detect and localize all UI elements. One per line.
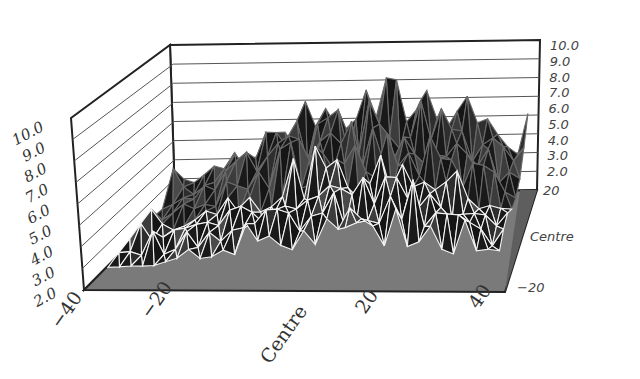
- z-tick-label: 7.0: [549, 85, 570, 100]
- z-tick-label: 6.0: [549, 101, 570, 116]
- x-tick-label: Centre: [255, 301, 311, 368]
- y-tick-label: Centre: [530, 229, 574, 244]
- z-tick-label: 9.0: [550, 54, 571, 69]
- z-axis-left-ticks: 2.03.04.05.06.07.08.09.010.0: [9, 117, 60, 311]
- z-tick-label: 4.0: [548, 133, 569, 148]
- z-tick-label: 4.0: [26, 242, 57, 270]
- y-tick-label: 20: [543, 183, 560, 198]
- y-tick-label: −20: [517, 280, 544, 295]
- surface-chart: 2.03.04.05.06.07.08.09.010.0 2.03.04.05.…: [0, 0, 640, 379]
- z-tick-label: 3.0: [547, 148, 568, 163]
- z-tick-label: 8.0: [549, 70, 570, 85]
- z-axis-right-ticks: 2.03.04.05.06.07.08.09.010.0: [547, 38, 579, 179]
- z-tick-label: 5.0: [548, 117, 569, 132]
- z-tick-label: 10.0: [550, 38, 579, 53]
- z-tick-label: 2.0: [547, 164, 568, 179]
